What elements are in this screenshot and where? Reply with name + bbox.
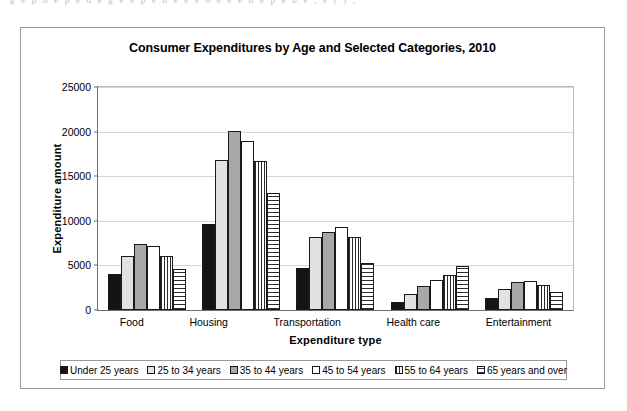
bar[interactable] [309,237,322,310]
legend-item[interactable]: 45 to 54 years [312,365,385,376]
bar[interactable] [254,161,267,310]
legend-label: 25 to 34 years [157,365,220,376]
bar-group-entertainment [485,87,563,310]
bar[interactable] [456,266,469,310]
legend-swatch-icon [230,366,238,374]
legend-swatch-icon [312,366,320,374]
bar[interactable] [202,224,215,310]
x-axis-title: Expenditure type [97,334,574,346]
bar[interactable] [524,281,537,310]
bar[interactable] [430,280,443,310]
chart-frame: Consumer Expenditures by Age and Selecte… [20,27,605,389]
bar[interactable] [404,294,417,311]
bar[interactable] [417,286,430,310]
bar[interactable] [391,302,404,310]
bar[interactable] [241,141,254,310]
y-tick-label: 15000 [62,170,91,182]
bar[interactable] [335,227,348,310]
legend-item[interactable]: 65 years and over [477,365,567,376]
scan-artifact-text: g e p o e p e o e g e e p e o e e e o e … [10,0,610,7]
bar[interactable] [537,285,550,310]
bar[interactable] [121,256,134,310]
bar-group-food [108,87,186,310]
legend-item[interactable]: 35 to 44 years [230,365,303,376]
x-tick-label: Transportation [274,316,341,332]
bar-group-health-care [391,87,469,310]
chart-legend: Under 25 years25 to 34 years35 to 44 yea… [60,360,567,380]
bar[interactable] [267,193,280,310]
legend-item[interactable]: 55 to 64 years [395,365,468,376]
bar[interactable] [322,232,335,310]
legend-swatch-icon [477,366,485,374]
bar[interactable] [361,263,374,310]
y-tick-label: 0 [85,304,91,316]
y-tick-label: 10000 [62,215,91,227]
bar[interactable] [215,160,228,310]
y-tick-label: 20000 [62,126,91,138]
legend-label: Under 25 years [70,365,138,376]
legend-swatch-icon [395,366,403,374]
legend-swatch-icon [60,366,68,374]
legend-label: 65 years and over [487,365,567,376]
y-axis-title: Expenditure amount [51,86,67,311]
legend-item[interactable]: Under 25 years [60,365,138,376]
bar[interactable] [296,268,309,310]
bar-group-transportation [296,87,374,310]
bar-group-housing [202,87,280,310]
bar[interactable] [160,256,173,310]
legend-item[interactable]: 25 to 34 years [147,365,220,376]
bar[interactable] [511,282,524,310]
x-tick-label: Food [120,316,144,332]
bar[interactable] [550,292,563,310]
bar[interactable] [443,275,456,310]
bar[interactable] [134,244,147,310]
x-tick-label: Health care [386,316,440,332]
x-tick-label: Entertainment [486,316,551,332]
legend-label: 45 to 54 years [322,365,385,376]
bar[interactable] [147,246,160,310]
plot-wrap: 0500010000150002000025000 [97,86,574,311]
plot-area: 0500010000150002000025000 [97,86,574,311]
y-tick-label: 25000 [62,81,91,93]
legend-swatch-icon [147,366,155,374]
legend-label: 35 to 44 years [240,365,303,376]
bar[interactable] [498,289,511,310]
bar[interactable] [348,237,361,310]
legend-label: 55 to 64 years [405,365,468,376]
x-tick-label: Housing [189,316,228,332]
x-axis-tick-labels: FoodHousingTransportationHealth careEnte… [97,316,574,332]
bar[interactable] [485,298,498,310]
bar-groups [98,87,573,310]
bar[interactable] [228,131,241,310]
bar[interactable] [173,269,186,310]
chart-title: Consumer Expenditures by Age and Selecte… [21,41,604,55]
bar[interactable] [108,274,121,310]
y-tick-label: 5000 [68,259,91,271]
